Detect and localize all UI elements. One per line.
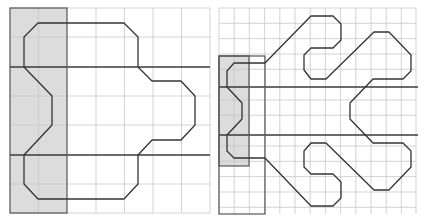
figure-canvas: [0, 0, 428, 221]
right-panel: [219, 8, 418, 214]
left-panel: [10, 8, 210, 213]
right-shape-upper-arm-outer: [265, 16, 411, 206]
